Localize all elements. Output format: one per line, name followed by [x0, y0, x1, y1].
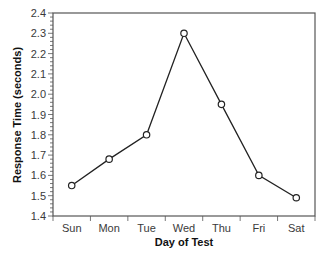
x-tick-label: Tue [137, 222, 156, 234]
data-point-marker [106, 156, 112, 162]
y-tick-label: 2.4 [31, 7, 46, 19]
y-axis-title: Response Time (seconds) [11, 47, 23, 183]
data-point-marker [256, 172, 262, 178]
data-point-marker [181, 30, 187, 36]
line-chart: 1.41.51.61.71.81.92.02.12.22.32.4 SunMon… [0, 0, 327, 261]
data-point-marker [293, 195, 299, 201]
data-point-marker [143, 132, 149, 138]
data-point-marker [218, 101, 224, 107]
y-tick-label: 1.6 [31, 169, 46, 181]
y-axis: 1.41.51.61.71.81.92.02.12.22.32.4 [31, 7, 53, 222]
x-axis-title: Day of Test [155, 236, 214, 248]
y-tick-label: 1.5 [31, 190, 46, 202]
y-tick-label: 2.2 [31, 48, 46, 60]
y-tick-label: 1.9 [31, 109, 46, 121]
data-point-marker [69, 182, 75, 188]
x-axis: SunMonTueWedThuFriSat [53, 216, 315, 234]
data-series [69, 30, 300, 201]
y-tick-label: 2.1 [31, 68, 46, 80]
x-tick-label: Thu [212, 222, 231, 234]
x-tick-label: Sat [288, 222, 305, 234]
x-tick-label: Fri [252, 222, 265, 234]
y-tick-label: 1.8 [31, 129, 46, 141]
y-tick-label: 1.4 [31, 210, 46, 222]
x-tick-label: Sun [62, 222, 82, 234]
x-tick-label: Wed [173, 222, 195, 234]
x-tick-label: Mon [98, 222, 119, 234]
chart-canvas: 1.41.51.61.71.81.92.02.12.22.32.4 SunMon… [0, 0, 327, 261]
y-tick-label: 1.7 [31, 149, 46, 161]
series-line [72, 33, 297, 197]
y-tick-label: 2.3 [31, 27, 46, 39]
y-tick-label: 2.0 [31, 88, 46, 100]
